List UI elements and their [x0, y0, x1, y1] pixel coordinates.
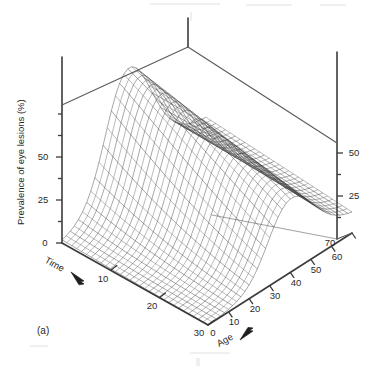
x-axis-title: Age: [215, 331, 235, 349]
frame-top-right: [188, 47, 337, 143]
z-right-tick-label-50: 50: [349, 147, 360, 158]
y-tick-label-30: 30: [194, 327, 205, 338]
mesh-line: [150, 145, 294, 292]
mesh-line: [189, 179, 333, 314]
surface-plot-3d: 0 25 50 25 50 10 20 30 Time: [0, 0, 379, 369]
z-axis-title: Prevalence of eye lesions (%): [15, 99, 26, 225]
mesh-line: [128, 69, 274, 227]
panel-label: (a): [37, 325, 49, 336]
mesh-line: [120, 119, 264, 275]
mesh-line: [78, 220, 224, 313]
x-tick-label-10: 10: [229, 316, 240, 327]
x-axis-title-group: Age: [215, 331, 235, 349]
x-tick-label-30: 30: [270, 290, 281, 301]
z-right-tick-label-25: 25: [349, 190, 360, 201]
mesh-line: [125, 123, 269, 277]
z-axis-left-ticks: 0 25 50: [38, 114, 62, 248]
time-arrow-icon: [71, 272, 84, 285]
x-tick-label-50: 50: [311, 264, 322, 275]
mesh-line: [81, 84, 225, 251]
z-axis-title-group: Prevalence of eye lesions (%): [15, 99, 26, 225]
mesh-line: [107, 128, 253, 278]
z-tick-label-50: 50: [38, 151, 49, 162]
mesh-line: [67, 71, 211, 243]
mesh-line: [190, 124, 336, 216]
frame-base-inner: [212, 215, 337, 239]
x-tick-label-60: 60: [332, 251, 343, 262]
y-tick-label-20: 20: [147, 300, 158, 311]
x-tick-label-20: 20: [250, 303, 261, 314]
x-tick-label-70: 70: [325, 237, 336, 248]
figure-panel: 0 25 50 25 50 10 20 30 Time: [0, 0, 379, 369]
mesh-line: [184, 175, 328, 311]
age-arrow-icon: [240, 327, 253, 340]
wireframe-mesh-surface: [62, 67, 352, 325]
x-tick-label-0: 0: [210, 327, 215, 338]
z-axis-right-ticks: 25 50: [337, 147, 359, 218]
mesh-line: [91, 191, 237, 301]
mesh-line: [198, 121, 344, 215]
mesh-line: [86, 88, 230, 254]
z-tick-label-0: 0: [42, 237, 47, 248]
mesh-line: [173, 121, 319, 209]
mesh-line: [101, 101, 245, 263]
y-tick-label-10: 10: [98, 273, 109, 284]
mesh-line: [91, 93, 235, 258]
mesh-line: [120, 83, 266, 248]
x-tick-label-40: 40: [291, 277, 302, 288]
mesh-line: [208, 196, 352, 324]
mesh-line: [164, 158, 308, 300]
y-axis-title-group: Time: [43, 254, 66, 274]
z-tick-label-25: 25: [38, 194, 49, 205]
y-axis-time-ticks: 10 20 30 Time: [43, 254, 214, 338]
y-axis-title: Time: [43, 254, 66, 274]
mesh-line: [103, 145, 249, 285]
mesh-line: [202, 119, 348, 213]
mesh-line: [203, 192, 347, 322]
mesh-line: [140, 72, 286, 203]
mesh-line: [99, 162, 245, 291]
mesh-line: [206, 117, 352, 212]
